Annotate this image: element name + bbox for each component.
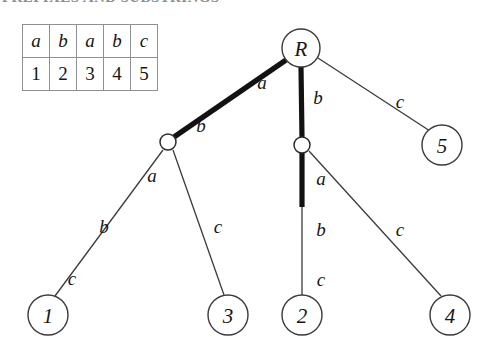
node-leaf-4: 4 <box>430 295 470 335</box>
node-leaf-3-label: 3 <box>222 304 234 328</box>
edge-root-to-left-node <box>174 60 286 137</box>
edge-root-to-right-node <box>301 67 302 138</box>
edge-label-b-left-branch: b <box>99 216 109 237</box>
node-root-label: R <box>294 37 308 61</box>
edge-label-a-left-branch: a <box>147 165 157 186</box>
edge-label-b-left: b <box>196 115 206 136</box>
node-leaf-1-label: 1 <box>43 304 54 328</box>
node-leaf-5-label: 5 <box>437 134 448 158</box>
node-leaf-2-label: 2 <box>297 304 308 328</box>
edge-label-c-leaf-2: c <box>317 269 326 290</box>
edge-label-b-root: b <box>313 87 323 108</box>
edge-label-c-leaf-3: c <box>214 216 223 237</box>
edge-label-b-right-branch: b <box>316 219 326 240</box>
node-internal-right <box>294 137 310 153</box>
node-root: R <box>282 29 320 67</box>
node-leaf-1: 1 <box>28 295 68 335</box>
diagram-canvas: PREFIXES AND SUBSTRINGS a b a b c 1 2 3 … <box>0 0 490 354</box>
node-leaf-2: 2 <box>282 295 322 335</box>
node-leaf-5: 5 <box>422 125 462 165</box>
edge-label-a-right-branch: a <box>316 168 326 189</box>
node-internal-left <box>160 134 176 150</box>
edge-label-a-root: a <box>257 72 267 93</box>
suffix-tree-diagram: a b b c a b c c a b c c R 1 3 2 <box>0 0 490 354</box>
edge-label-c-leaf-5: c <box>396 91 405 112</box>
edge-label-c-leaf-4: c <box>396 219 405 240</box>
edge-right-node-to-leaf-4 <box>309 151 441 296</box>
edge-root-to-leaf-5 <box>318 58 430 131</box>
node-leaf-3: 3 <box>208 295 248 335</box>
edge-label-c-leaf-1: c <box>68 268 77 289</box>
node-leaf-4-label: 4 <box>445 304 456 328</box>
